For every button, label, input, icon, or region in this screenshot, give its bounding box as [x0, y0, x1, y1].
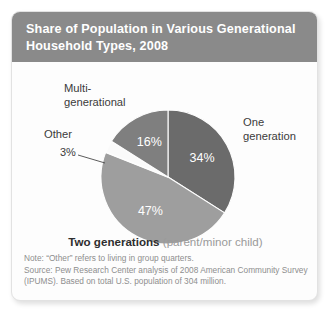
page-title: Share of Population in Various Generatio… — [26, 21, 305, 54]
pie-value-multi-generational: 16% — [137, 135, 162, 149]
slice-label-two-generations: Two generations (parent/minor child) — [12, 235, 318, 248]
slice-label-other: Other — [44, 128, 72, 142]
footnote-basis-line: (IPUMS). Based on total U.S. population … — [24, 276, 314, 288]
footnote-note-line: Note: “Other” refers to living in group … — [24, 253, 314, 265]
pie-chart-svg: 34%47%16% — [12, 62, 318, 252]
slice-label-multi-generational: Multi- generational — [64, 82, 159, 109]
slice-label-one-generation: One generation — [243, 116, 317, 143]
chart-card: Share of Population in Various Generatio… — [11, 11, 318, 301]
pie-value-two-generations: 47% — [138, 204, 163, 218]
pie-value-one-generation: 34% — [190, 151, 215, 165]
chart-footnote: Note: “Other” refers to living in group … — [24, 253, 314, 288]
pie-slice-group — [101, 110, 235, 244]
other-leader-line — [78, 155, 105, 163]
footnote-source-line: Source: Pew Research Center analysis of … — [24, 265, 314, 277]
slice-value-other: 3% — [60, 146, 76, 160]
two-generations-main-text: Two generations — [68, 235, 162, 248]
chart-title-band: Share of Population in Various Generatio… — [12, 12, 318, 62]
two-generations-sub-text: (parent/minor child) — [163, 235, 263, 248]
pie-chart-plot-area: 34%47%16% Multi- generational Other 3% O… — [12, 62, 318, 252]
